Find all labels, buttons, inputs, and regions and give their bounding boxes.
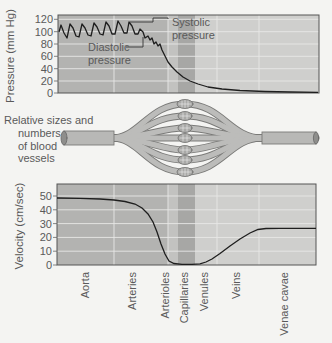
svg-text:vessels: vessels <box>18 152 55 164</box>
diastolic-annotation: Diastolic pressure <box>88 41 131 66</box>
tick-0: 0 <box>46 259 52 271</box>
tick-50: 50 <box>40 190 52 202</box>
blood-vessel-diagram <box>61 100 319 177</box>
x-label-venae-cavae: Venae cavae <box>278 272 290 336</box>
tick-0: 0 <box>47 87 53 99</box>
pressure-y-tick-labels: 120 100 80 60 40 20 0 <box>35 13 53 99</box>
pressure-y-axis-label: Pressure (mm Hg) <box>4 9 16 103</box>
tick-40: 40 <box>40 204 52 216</box>
x-label-capillaries: Capillaries <box>178 272 190 324</box>
x-label-aorta: Aorta <box>79 271 91 298</box>
tick-100: 100 <box>35 26 53 38</box>
x-label-arteries: Arteries <box>126 272 138 310</box>
x-label-veins: Veins <box>230 272 242 299</box>
svg-text:Systolic: Systolic <box>172 16 210 28</box>
circulation-figure: 120 100 80 60 40 20 0 Pressure (mm Hg) S… <box>0 0 332 343</box>
vena-cava-tube <box>262 132 316 144</box>
tick-40: 40 <box>41 63 53 75</box>
velocity-y-ticks <box>53 196 57 265</box>
vena-cava-opening <box>313 132 318 144</box>
tick-80: 80 <box>41 38 53 50</box>
velocity-chart: 50 40 30 20 10 0 Velocity (cm/sec) <box>13 182 316 271</box>
svg-text:Relative sizes and: Relative sizes and <box>4 114 93 126</box>
tick-120: 120 <box>35 13 53 25</box>
svg-text:Diastolic: Diastolic <box>88 41 130 53</box>
svg-text:pressure: pressure <box>88 54 131 66</box>
x-label-venules: Venules <box>198 272 210 312</box>
tick-20: 20 <box>40 231 52 243</box>
svg-text:of blood: of blood <box>18 140 57 152</box>
pressure-chart: 120 100 80 60 40 20 0 Pressure (mm Hg) S… <box>4 9 319 103</box>
systolic-annotation: Systolic pressure <box>172 16 215 41</box>
pressure-y-ticks <box>54 19 58 93</box>
tick-10: 10 <box>40 245 52 257</box>
velocity-y-axis-label: Velocity (cm/sec) <box>13 182 25 269</box>
velocity-y-tick-labels: 50 40 30 20 10 0 <box>40 190 52 271</box>
aorta-opening <box>61 131 67 145</box>
svg-text:pressure: pressure <box>172 29 215 41</box>
aorta-tube <box>64 131 114 145</box>
x-axis-labels: Aorta Arteries Arterioles Capillaries Ve… <box>79 271 290 336</box>
tick-30: 30 <box>40 218 52 230</box>
tick-60: 60 <box>41 50 53 62</box>
svg-text:numbers: numbers <box>18 127 61 139</box>
tick-20: 20 <box>41 75 53 87</box>
x-label-arterioles: Arterioles <box>159 272 171 319</box>
